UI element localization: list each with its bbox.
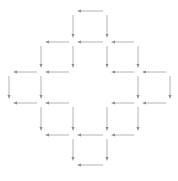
- arrowhead-down-icon: [169, 95, 172, 99]
- arrowhead-down-icon: [137, 127, 140, 131]
- down-arrow: [40, 107, 43, 131]
- down-arrow: [72, 15, 75, 38]
- left-arrow: [45, 71, 69, 74]
- left-arrow: [77, 41, 103, 44]
- arrowhead-down-icon: [137, 64, 140, 68]
- arrowhead-left-icon: [13, 71, 17, 74]
- arrowhead-down-icon: [72, 127, 75, 131]
- arrowhead-left-icon: [45, 134, 49, 137]
- arrowhead-left-icon: [111, 71, 115, 74]
- down-arrow: [72, 46, 75, 68]
- arrowhead-left-icon: [77, 164, 81, 167]
- down-arrow: [106, 139, 109, 161]
- arrowhead-down-icon: [40, 95, 43, 99]
- down-arrow: [169, 76, 172, 99]
- left-arrow: [45, 102, 69, 105]
- left-arrow: [13, 71, 37, 74]
- arrowhead-down-icon: [106, 34, 109, 38]
- down-arrow: [40, 46, 43, 68]
- arrowhead-down-icon: [72, 64, 75, 68]
- arrowhead-left-icon: [45, 102, 49, 105]
- left-arrow: [111, 41, 134, 44]
- arrowhead-down-icon: [106, 64, 109, 68]
- arrowhead-down-icon: [72, 157, 75, 161]
- down-arrow: [137, 46, 140, 68]
- arrowhead-down-icon: [72, 34, 75, 38]
- left-arrow: [45, 134, 69, 137]
- down-arrow: [106, 15, 109, 38]
- down-arrow: [40, 76, 43, 99]
- left-arrow: [111, 134, 134, 137]
- left-arrow: [77, 164, 103, 167]
- down-arrow: [106, 46, 109, 68]
- down-arrow: [137, 76, 140, 99]
- arrowhead-left-icon: [45, 41, 49, 44]
- arrowhead-down-icon: [8, 95, 11, 99]
- arrow-grid-diagram: [0, 0, 178, 181]
- left-arrow: [142, 102, 166, 105]
- left-arrow: [45, 41, 69, 44]
- down-arrow: [72, 107, 75, 131]
- arrowhead-left-icon: [111, 134, 115, 137]
- left-arrow: [13, 102, 37, 105]
- arrowhead-left-icon: [77, 134, 81, 137]
- arrowhead-down-icon: [40, 127, 43, 131]
- arrowhead-left-icon: [77, 10, 81, 13]
- arrowhead-left-icon: [13, 102, 17, 105]
- down-arrow: [137, 107, 140, 131]
- arrowhead-left-icon: [142, 102, 146, 105]
- arrowhead-left-icon: [142, 71, 146, 74]
- arrowhead-down-icon: [137, 95, 140, 99]
- arrowhead-down-icon: [106, 157, 109, 161]
- left-arrow: [77, 134, 103, 137]
- arrowhead-left-icon: [45, 71, 49, 74]
- arrowhead-left-icon: [111, 41, 115, 44]
- left-arrow: [77, 10, 103, 13]
- down-arrow: [8, 76, 11, 99]
- arrowhead-left-icon: [111, 102, 115, 105]
- arrowhead-down-icon: [106, 127, 109, 131]
- arrowhead-left-icon: [77, 41, 81, 44]
- diagram-canvas: [0, 0, 178, 181]
- left-arrow: [111, 71, 134, 74]
- left-arrow: [111, 102, 134, 105]
- down-arrow: [106, 107, 109, 131]
- left-arrow: [142, 71, 166, 74]
- arrowhead-down-icon: [40, 64, 43, 68]
- down-arrow: [72, 139, 75, 161]
